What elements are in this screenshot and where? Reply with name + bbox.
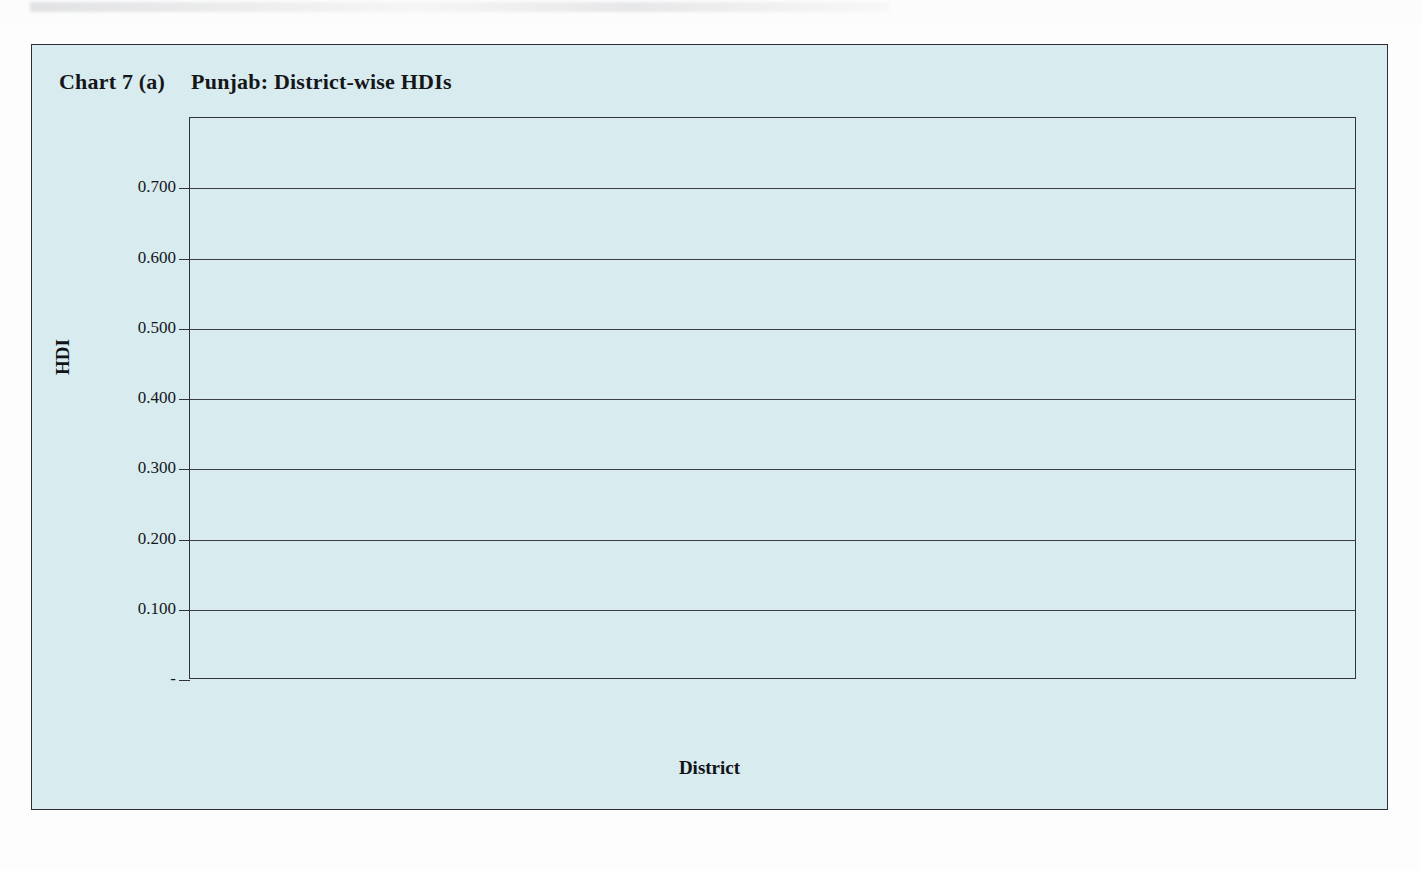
scan-smudge [30, 2, 890, 12]
chart-number-label: Chart 7 (a) [59, 69, 165, 94]
y-axis-tick-label: 0.100 [138, 599, 176, 619]
gridline [190, 540, 1355, 541]
y-axis-tick-label: 0.300 [138, 458, 176, 478]
x-axis-title: District [32, 757, 1387, 779]
y-axis-tick-label: 0.200 [138, 529, 176, 549]
chart-figure-frame: Chart 7 (a)Punjab: District-wise HDIs HD… [31, 44, 1388, 810]
chart-title: Chart 7 (a)Punjab: District-wise HDIs [59, 69, 452, 95]
y-axis-tick [179, 259, 190, 260]
y-axis-tick-label: 0.600 [138, 248, 176, 268]
y-axis-tick [179, 329, 190, 330]
y-axis-tick [179, 540, 190, 541]
y-axis-tick-label: - [170, 669, 176, 689]
y-axis-tick [179, 188, 190, 189]
y-axis-tick [179, 469, 190, 470]
y-axis-title: HDI [52, 339, 74, 375]
gridline [190, 469, 1355, 470]
plot-area [189, 117, 1356, 679]
scan-artifact-strip [0, 0, 1421, 22]
y-axis-tick-label: 0.400 [138, 388, 176, 408]
gridline [190, 329, 1355, 330]
y-axis-tick [179, 610, 190, 611]
gridline [190, 259, 1355, 260]
y-axis-tick-label: 0.500 [138, 318, 176, 338]
chart-title-text: Punjab: District-wise HDIs [191, 69, 452, 94]
bar-series [190, 118, 1355, 678]
gridline [190, 610, 1355, 611]
y-axis-tick-label: 0.700 [138, 177, 176, 197]
y-axis-tick [179, 680, 190, 681]
gridline [190, 188, 1355, 189]
gridline [190, 399, 1355, 400]
y-axis-tick [179, 399, 190, 400]
y-axis-tick-labels: 0.7000.6000.5000.4000.3000.2000.100- [72, 117, 176, 679]
page-root: Chart 7 (a)Punjab: District-wise HDIs HD… [0, 0, 1421, 870]
